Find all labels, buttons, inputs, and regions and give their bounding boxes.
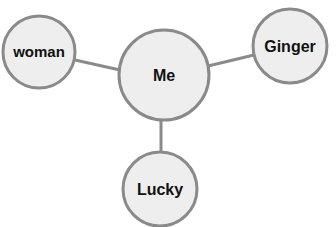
- mind-map-diagram: woman Me Ginger Lucky: [0, 0, 336, 227]
- node-me: Me: [119, 30, 209, 120]
- node-label-me: Me: [153, 67, 175, 84]
- edge-me-ginger: [208, 55, 254, 66]
- node-label-woman: woman: [12, 43, 65, 60]
- node-lucky: Lucky: [123, 152, 197, 226]
- node-woman: woman: [3, 16, 75, 88]
- edge-me-woman: [75, 60, 120, 70]
- node-label-lucky: Lucky: [137, 181, 183, 198]
- node-ginger: Ginger: [253, 9, 327, 83]
- node-label-ginger: Ginger: [264, 38, 316, 55]
